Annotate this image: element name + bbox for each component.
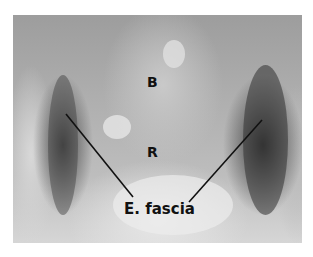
label-r: R	[147, 145, 158, 159]
pointer-lines	[0, 0, 313, 257]
pointer-line-left	[66, 114, 133, 197]
pointer-line-right	[189, 120, 262, 202]
label-b: B	[147, 75, 158, 89]
label-e-fascia: E. fascia	[124, 202, 195, 217]
